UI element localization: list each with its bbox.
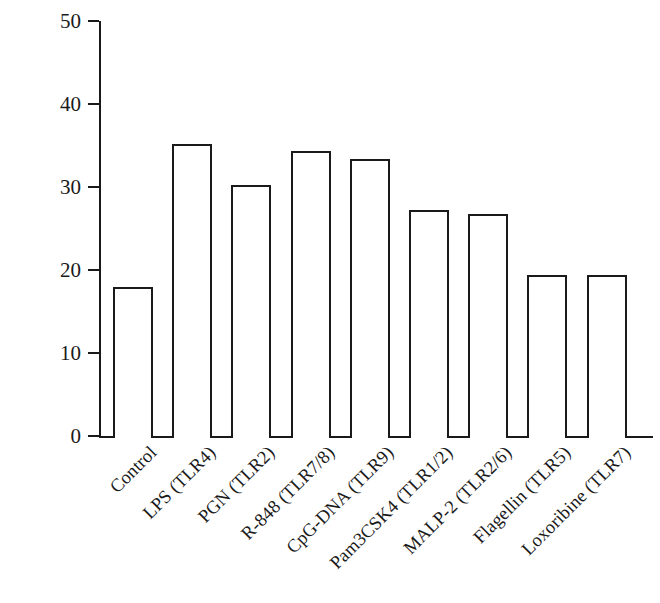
bar [468, 214, 508, 438]
bar [291, 151, 331, 438]
x-axis-label: Control [107, 443, 161, 497]
bar [172, 144, 212, 438]
y-tick-label: 0 [71, 426, 82, 447]
x-axis-labels: ControlLPS (TLR4)PGN (TLR2)R-848 (TLR7/8… [99, 443, 659, 593]
y-tick-30: 30 [88, 186, 99, 188]
x-axis-label: Loxoribine (TLR7) [518, 443, 634, 559]
y-axis-title: Mean fluorescence intensity [14, 0, 58, 62]
bar [350, 159, 390, 438]
y-tick-40: 40 [88, 103, 99, 105]
plot-area: 01020304050 [99, 21, 653, 437]
x-axis-label: CpG-DNA (TLR9) [283, 443, 397, 557]
bar [113, 287, 153, 438]
y-tick-label: 10 [60, 343, 81, 364]
bar [527, 275, 567, 438]
y-tick-label: 30 [60, 177, 81, 198]
y-tick-label: 40 [60, 94, 81, 115]
y-tick-0: 0 [88, 435, 99, 437]
y-tick-20: 20 [88, 269, 99, 271]
bar-chart-figure: Mean fluorescence intensity 01020304050 … [0, 0, 660, 603]
y-axis-line [99, 21, 101, 438]
bar [409, 210, 449, 438]
bar [587, 275, 627, 438]
y-tick-10: 10 [88, 352, 99, 354]
bar [231, 185, 271, 438]
x-axis-label: MALP-2 (TLR2/6) [400, 443, 515, 558]
y-tick-50: 50 [88, 20, 99, 22]
y-tick-label: 50 [60, 11, 81, 32]
y-tick-label: 20 [60, 260, 81, 281]
